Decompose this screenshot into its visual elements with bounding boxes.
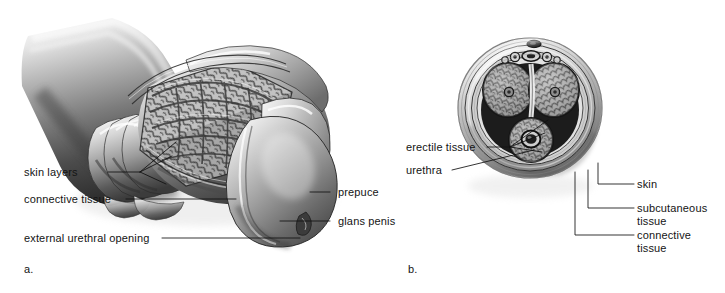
corpus-cavernosum-right: [529, 63, 579, 117]
illustration-artwork: [0, 0, 725, 293]
label-external-urethral-opening: external urethral opening: [24, 232, 149, 245]
panel-b-art: [458, 38, 602, 198]
label-connective-tissue: connective tissue: [24, 193, 111, 206]
label-skin: skin: [637, 178, 657, 191]
label-prepuce: prepuce: [338, 186, 379, 199]
label-subcutaneous-tissue: subcutaneous tissue: [637, 202, 707, 227]
label-glans-penis: glans penis: [338, 215, 395, 228]
panel-letter-b: b.: [408, 263, 418, 275]
corpus-cavernosum-left: [483, 63, 533, 117]
label-skin-layers: skin layers: [24, 166, 78, 179]
label-erectile-tissue: erectile tissue: [406, 141, 476, 154]
panel-letter-a: a.: [24, 263, 34, 275]
corpus-spongiosum: [509, 118, 553, 162]
label-connective-tissue-b: connective tissue: [637, 229, 691, 254]
label-urethra: urethra: [406, 164, 442, 177]
panel-a-art: [22, 18, 338, 247]
anatomy-figure: skin layers connective tissue external u…: [0, 0, 725, 293]
